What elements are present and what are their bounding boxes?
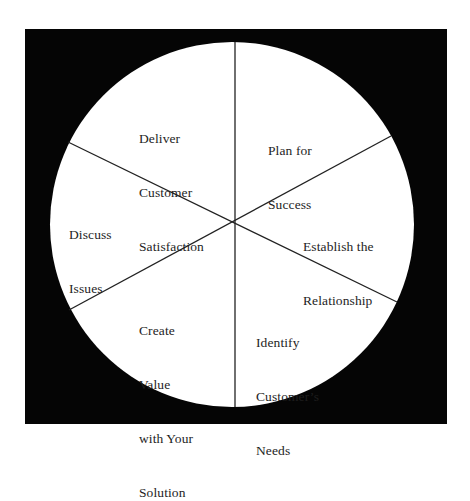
- segment-label-line: Solution: [139, 484, 193, 501]
- segment-label-line: Satisfaction: [139, 238, 204, 256]
- segment-label-line: Identify: [256, 334, 319, 352]
- segment-create-value: Create Value with Your Solution: [139, 286, 193, 501]
- segment-label-line: Discuss: [69, 226, 112, 244]
- segment-discuss-issues: Discuss Issues: [69, 190, 112, 316]
- segment-identify-needs: Identify Customer’s Needs: [256, 298, 319, 478]
- segment-label-line: with Your: [139, 430, 193, 448]
- segment-label-line: Needs: [256, 442, 319, 460]
- segment-label-line: Value: [139, 376, 193, 394]
- segment-label-line: Issues: [69, 280, 112, 298]
- segment-label-line: Customer’s: [256, 388, 319, 406]
- segment-label-line: Establish the: [303, 238, 374, 256]
- segment-label-line: Customer: [139, 184, 204, 202]
- segment-label-line: Create: [139, 322, 193, 340]
- segment-deliver-satisfaction: Deliver Customer Satisfaction: [139, 94, 204, 274]
- segment-label-line: Deliver: [139, 130, 204, 148]
- segment-label-line: Plan for: [268, 142, 312, 160]
